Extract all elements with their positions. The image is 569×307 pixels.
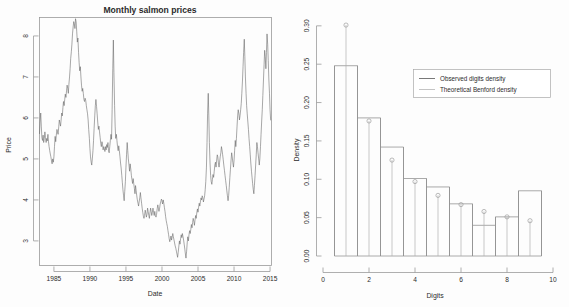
left-y-axis-label: Price [5, 137, 12, 153]
left-y-tick-label: 4 [22, 198, 29, 202]
left-x-tick-label: 2015 [263, 275, 278, 282]
right-y-axis: 0.000.050.100.150.200.250.30 [303, 19, 321, 262]
legend-frame [414, 70, 551, 98]
left-y-tick-label: 3 [22, 239, 29, 243]
right-x-tick-label: 4 [413, 276, 417, 283]
right-y-tick-label: 0.25 [303, 57, 310, 70]
salmon-price-line [40, 19, 271, 258]
left-x-tick-label: 1995 [119, 275, 134, 282]
benford-histogram-svg: 0.000.050.100.150.200.250.30 0246810 Obs… [285, 0, 569, 307]
left-chart-title: Monthly salmon prices [103, 5, 196, 15]
benford-histogram-panel: 0.000.050.100.150.200.250.30 0246810 Obs… [285, 0, 569, 307]
left-x-tick-label: 2005 [191, 275, 206, 282]
left-x-tick-label: 2010 [227, 275, 242, 282]
right-y-tick-label: 0.20 [303, 96, 310, 109]
right-x-tick-label: 0 [321, 276, 325, 283]
left-y-tick-label: 6 [22, 116, 29, 120]
left-plot-frame [40, 18, 272, 266]
left-y-tick-label: 7 [22, 75, 29, 79]
right-x-tick-label: 10 [549, 276, 557, 283]
right-y-axis-label: Density [293, 138, 301, 162]
theoretical-benford-stems [344, 23, 532, 256]
left-x-axis: 1985199019952000200520102015 [47, 267, 278, 283]
legend-label-theoretical: Theoretical Benford density [440, 86, 518, 94]
right-x-axis-label: Digits [426, 292, 444, 300]
right-x-tick-label: 6 [459, 276, 463, 283]
salmon-price-timeseries-svg: Monthly salmon prices 345678 19851990199… [0, 0, 285, 307]
right-y-tick-label: 0.15 [303, 134, 310, 147]
left-y-tick-label: 8 [22, 34, 29, 38]
right-x-axis: 0246810 [321, 268, 557, 284]
left-x-tick-label: 1990 [83, 275, 98, 282]
right-y-tick-label: 0.05 [303, 211, 310, 224]
left-y-axis: 345678 [22, 34, 38, 243]
right-y-tick-label: 0.30 [303, 19, 310, 32]
right-x-tick-label: 2 [367, 276, 371, 283]
legend-label-observed: Observed digits density [440, 75, 506, 83]
right-y-tick-label: 0.00 [303, 249, 310, 262]
salmon-price-timeseries-panel: Monthly salmon prices 345678 19851990199… [0, 0, 285, 307]
left-x-axis-label: Date [148, 290, 163, 297]
right-x-tick-label: 8 [505, 276, 509, 283]
left-x-tick-label: 1985 [47, 275, 62, 282]
benford-legend: Observed digits density Theoretical Benf… [414, 70, 551, 98]
left-x-tick-label: 2000 [155, 275, 170, 282]
figure-canvas: Monthly salmon prices 345678 19851990199… [0, 0, 569, 307]
left-y-tick-label: 5 [22, 157, 29, 161]
right-y-tick-label: 0.10 [303, 173, 310, 186]
